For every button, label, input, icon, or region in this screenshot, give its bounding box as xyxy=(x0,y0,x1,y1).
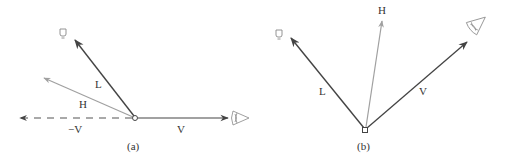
caption-b: (b) xyxy=(357,140,370,153)
l-label: L xyxy=(95,78,102,90)
l-label: L xyxy=(319,85,326,97)
surface-point xyxy=(363,128,368,133)
h-label: H xyxy=(79,98,87,110)
eye-icon xyxy=(232,111,250,125)
neg-v-label: −V xyxy=(68,123,82,135)
eye-icon xyxy=(465,11,490,36)
light-bulb-icon xyxy=(276,30,282,39)
h-vector xyxy=(366,21,382,127)
l-vector xyxy=(291,38,364,128)
v-vector xyxy=(367,42,467,128)
surface-point xyxy=(133,116,138,121)
reflection-vectors-diagram: L H −V V (a) L H V (b) xyxy=(0,0,512,158)
caption-a: (a) xyxy=(127,140,140,153)
v-label: V xyxy=(419,85,427,97)
v-label: V xyxy=(177,123,185,135)
h-label: H xyxy=(378,4,386,16)
panel-a: L H −V V (a) xyxy=(20,29,249,153)
light-bulb-icon xyxy=(60,29,66,38)
panel-b: L H V (b) xyxy=(276,4,490,153)
